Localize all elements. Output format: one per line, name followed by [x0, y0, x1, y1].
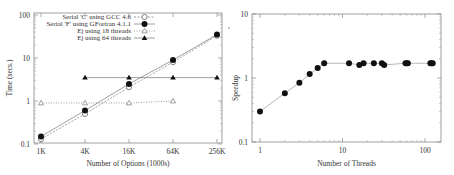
data-point: [381, 62, 387, 68]
data-point: [430, 60, 436, 66]
y-axis-label: Time (secs.): [5, 59, 14, 96]
legend-marker: [142, 28, 147, 33]
data-point: [405, 60, 411, 66]
y-tick-label: 0.1: [21, 140, 31, 149]
data-point: [282, 90, 288, 96]
x-axis-label: Number of Options (1000s): [86, 159, 170, 168]
x-tick-label: 256K: [209, 147, 226, 156]
data-point: [315, 65, 321, 71]
series-1: [38, 32, 220, 140]
y-tick-label: 1: [244, 74, 248, 83]
data-point: [307, 71, 313, 77]
figure: 0.11101001K4K16K64K256KNumber of Options…: [0, 0, 454, 175]
data-point: [321, 60, 327, 66]
legend-marker: [142, 14, 147, 19]
legend-marker: [142, 35, 148, 40]
data-point: [371, 60, 377, 66]
charts-canvas: 0.11101001K4K16K64K256KNumber of Options…: [0, 0, 454, 175]
x-axis-label: Number of Threads: [317, 159, 376, 168]
data-point: [170, 75, 176, 80]
data-point: [361, 60, 367, 66]
speedup-vs-threads-chart: 0.1110110100Number of ThreadsSpeedup: [231, 10, 441, 169]
data-point: [214, 32, 220, 38]
series-0: [257, 60, 436, 114]
legend-label: Ej using 64 threads: [77, 34, 131, 42]
series-0: [38, 33, 219, 142]
x-tick-label: 4K: [80, 147, 90, 156]
data-point: [82, 108, 88, 114]
data-point: [126, 75, 132, 80]
x-tick-label: 100: [419, 146, 431, 155]
data-point: [38, 133, 44, 139]
x-tick-label: 64K: [167, 147, 181, 156]
data-point: [257, 108, 263, 114]
y-tick-label: 10: [23, 54, 31, 63]
data-point: [38, 100, 43, 105]
plot-frame: [252, 14, 441, 142]
x-tick-label: 1K: [36, 147, 46, 156]
data-point: [126, 100, 131, 105]
series-3: [82, 75, 220, 80]
x-tick-label: 16K: [123, 147, 137, 156]
series-2: [38, 98, 175, 104]
data-point: [170, 98, 175, 103]
time-vs-options-chart: 0.11101001K4K16K64K256KNumber of Options…: [5, 11, 226, 169]
legend-marker: [142, 21, 148, 27]
data-point: [346, 60, 352, 66]
data-point: [214, 75, 220, 80]
x-tick-label: 10: [339, 146, 347, 155]
x-tick-label: 1: [258, 146, 262, 155]
y-tick-label: 1: [26, 97, 30, 106]
data-point: [82, 75, 88, 80]
data-point: [82, 100, 87, 105]
stray-dot: [228, 27, 229, 28]
data-point: [170, 57, 176, 63]
y-tick-label: 10: [241, 10, 249, 19]
y-axis-label: Speedup: [231, 75, 240, 101]
data-point: [126, 81, 132, 87]
y-tick-label: 0.1: [239, 138, 249, 147]
legend: Serial 'C' using GCC 4.6Serial 'F' using…: [46, 13, 155, 42]
y-tick-label: 100: [19, 11, 31, 20]
data-point: [296, 80, 302, 86]
